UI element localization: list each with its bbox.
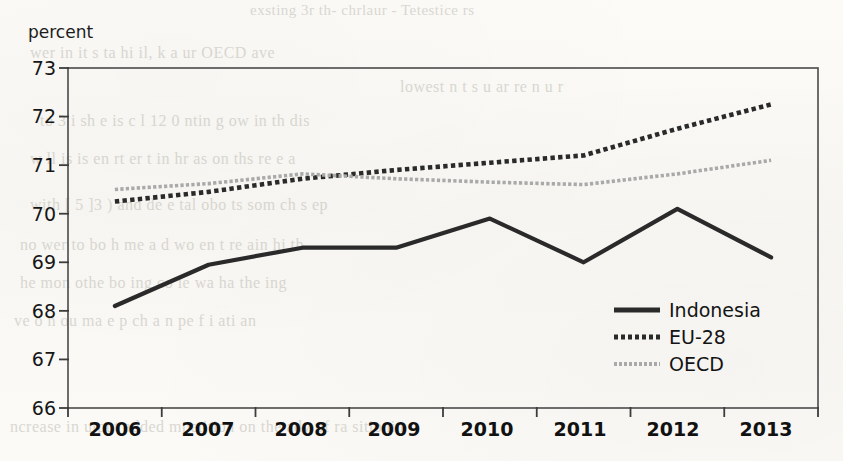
- legend-swatch-solid-icon: [614, 303, 660, 317]
- series-line-oecd: [115, 160, 771, 189]
- legend-swatch-fine-dotted-icon: [614, 357, 660, 371]
- plot-area: [0, 0, 843, 461]
- legend-label: EU-28: [669, 326, 726, 348]
- legend-item-oecd[interactable]: OECD: [614, 350, 761, 377]
- legend-label: OECD: [669, 353, 724, 375]
- legend-swatch-dotted-icon: [614, 330, 660, 344]
- data-series-layer: [115, 104, 771, 306]
- line-chart-figure: percent 73 72 71 70 69 68 67 66 2006 200…: [0, 0, 843, 461]
- series-line-indonesia: [115, 209, 771, 306]
- chart-legend: Indonesia EU-28 OECD: [614, 296, 761, 377]
- legend-label: Indonesia: [669, 299, 761, 321]
- legend-item-eu-28[interactable]: EU-28: [614, 323, 761, 350]
- legend-item-indonesia[interactable]: Indonesia: [614, 296, 761, 323]
- series-line-eu-28: [115, 104, 771, 201]
